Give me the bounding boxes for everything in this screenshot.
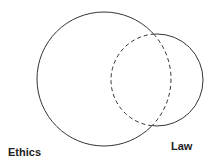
law-circle [111,34,203,126]
law-label: Law [171,141,192,152]
venn-diagram [0,0,210,163]
ethics-label: Ethics [8,147,41,158]
